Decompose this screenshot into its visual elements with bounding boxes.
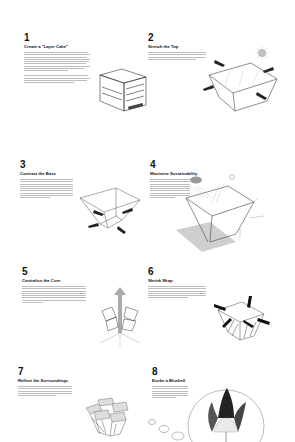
stretch-top-illustration (205, 45, 285, 115)
step-body-text (18, 386, 78, 396)
step-5: 5 Centralise the Core (22, 267, 90, 304)
step-7: 7 Reflect the Surroundings (18, 367, 78, 397)
bluebell-thought-bubble-illustration (148, 384, 266, 442)
step-number: 4 (150, 160, 195, 170)
step-body-text (22, 286, 90, 303)
step-number: 3 (20, 160, 75, 170)
step-number: 2 (148, 33, 208, 43)
step-number: 7 (18, 367, 78, 377)
shrink-wrap-illustration (214, 296, 270, 342)
layer-cake-box-illustration (98, 67, 148, 113)
contract-base-illustration (78, 186, 142, 236)
step-number: 6 (148, 267, 208, 277)
step-title: Centralise the Core (22, 278, 90, 283)
step-title: Reflect the Surroundings (18, 378, 78, 383)
step-number: 5 (22, 267, 90, 277)
sustainability-illustration (184, 172, 274, 250)
step-number: 1 (24, 33, 92, 43)
step-body-text (148, 52, 208, 60)
step-title: Stretch the Top (148, 44, 208, 49)
reflect-surroundings-illustration (84, 398, 132, 438)
step-body-text (148, 286, 208, 298)
step-6: 6 Shrink Wrap (148, 267, 208, 300)
step-2: 2 Stretch the Top (148, 33, 208, 61)
step-body-text (24, 52, 92, 83)
step-title: Shrink Wrap (148, 278, 208, 283)
step-3: 3 Contract the Base (20, 160, 75, 200)
core-illustration (96, 287, 144, 349)
step-title: Create a "Layer Cake" (24, 44, 92, 49)
step-title: Evoke a Bluebell (152, 378, 190, 383)
step-body-text (20, 179, 75, 198)
step-number: 8 (152, 367, 190, 377)
step-1: 1 Create a "Layer Cake" (24, 33, 92, 85)
step-title: Contract the Base (20, 171, 75, 176)
